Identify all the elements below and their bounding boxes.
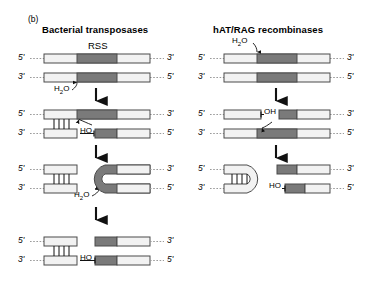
dna-diagram-graphics xyxy=(0,0,373,291)
stage-bacterial-4 xyxy=(30,237,164,265)
stage-hat-rag-2 xyxy=(210,110,344,138)
stage-bacterial-1 xyxy=(30,54,164,90)
stage-bacterial-3 xyxy=(30,165,164,196)
stage-bacterial-2 xyxy=(30,110,164,138)
figure-panel-b: (b) Bacterial transposases hAT/RAG recom… xyxy=(0,0,373,291)
stage-hat-rag-1 xyxy=(210,43,344,82)
stage-hat-rag-3 xyxy=(210,165,344,193)
